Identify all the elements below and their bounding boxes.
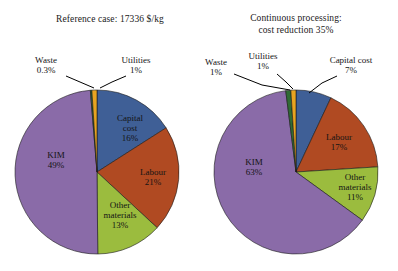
leader-line-capital-cost <box>309 76 337 93</box>
slice-label-kim: KIM63% <box>245 157 263 177</box>
leader-line-waste <box>66 76 94 88</box>
pie-reference-case: Capitalcost16%Labour21%Othermaterials13%… <box>15 55 179 254</box>
callout-label-capital-cost: Capital cost7% <box>330 55 373 75</box>
pie-slice-kim[interactable] <box>15 90 98 254</box>
leader-line-waste <box>234 74 290 90</box>
slice-label-kim: KIM49% <box>47 150 65 170</box>
callout-label-utilities: Utilities1% <box>122 55 151 75</box>
pie-chart-figure: Reference case: 17336 $/kg Continuous pr… <box>0 0 398 271</box>
callout-label-waste: Waste0.3% <box>35 55 57 75</box>
callout-label-waste: Waste1% <box>205 57 227 77</box>
leader-line-utilities <box>100 76 126 88</box>
pie-charts-svg: Capitalcost16%Labour21%Othermaterials13%… <box>0 0 398 271</box>
pie-continuous-processing: Labour17%Othermaterials11%KIM63%Waste1%U… <box>205 51 378 254</box>
leader-line-utilities <box>277 74 293 89</box>
callout-label-utilities: Utilities1% <box>249 51 278 71</box>
